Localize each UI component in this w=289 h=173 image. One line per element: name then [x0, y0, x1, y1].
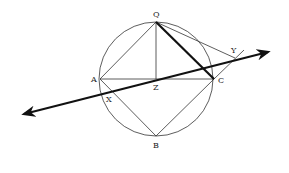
- label-B: B: [153, 141, 159, 150]
- label-A: A: [90, 75, 97, 84]
- geometry-diagram: Q A C B Z X Y: [0, 0, 289, 173]
- line-XY: [24, 52, 268, 114]
- label-C: C: [218, 76, 224, 85]
- label-Z: Z: [153, 83, 159, 92]
- segment-QA: [100, 22, 156, 79]
- label-Y: Y: [230, 46, 237, 55]
- segment-QY: [156, 22, 235, 58]
- label-Q: Q: [153, 10, 160, 19]
- label-X: X: [106, 95, 112, 104]
